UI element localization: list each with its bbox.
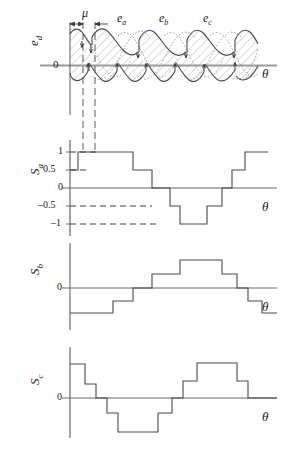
overlap-dimension-arrows	[70, 22, 108, 26]
ed-theta-label: θ	[262, 66, 268, 82]
panel-sa	[62, 140, 277, 236]
sa-axis-label: Sa	[27, 164, 45, 175]
sc-ytick-0: 0	[57, 391, 62, 402]
panel-sb	[62, 243, 277, 330]
panel-sc	[62, 347, 277, 438]
sa-ytick-1: 1	[58, 145, 63, 156]
overlap-angle-label: μ	[82, 6, 88, 21]
panel-ed	[40, 22, 277, 152]
sb-theta-label: θ	[262, 299, 268, 315]
sa-theta-label: θ	[262, 199, 268, 215]
sa-ytick-0: 0	[58, 181, 63, 192]
sc-theta-label: θ	[262, 409, 268, 425]
sc-axis-label: Sc	[27, 375, 45, 386]
sb-ytick-0: 0	[57, 281, 62, 292]
sa-ytick-0p5: 0.5	[43, 163, 56, 174]
waveform-figure	[0, 0, 290, 458]
sb-staircase	[70, 260, 277, 313]
ed-zero-tick-label: 0	[53, 58, 59, 70]
sa-ytick-neg0p5: –0.5	[38, 199, 56, 210]
phase-label-ec: ec	[203, 11, 212, 27]
sa-ytick-neg1: –1	[51, 217, 61, 228]
phase-label-ea: ea	[117, 11, 126, 27]
ed-axis-label: ed	[26, 36, 44, 46]
phase-label-eb: eb	[159, 11, 168, 27]
sb-axis-label: Sb	[27, 264, 45, 275]
